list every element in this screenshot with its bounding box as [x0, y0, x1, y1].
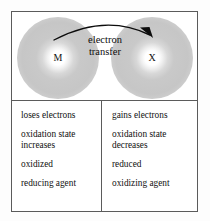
- electron-transfer-label-line2: transfer: [89, 46, 121, 57]
- electron-transfer-label: electron transfer: [67, 34, 143, 58]
- table-column-reduction: gains electrons oxidation state decrease…: [101, 101, 197, 211]
- table-cell: loses electrons: [21, 110, 101, 121]
- table-cell: oxidation state decreases: [112, 129, 197, 151]
- table-cell: reduced: [112, 159, 197, 170]
- figure-page: M X electron transfer loses electrons ox…: [0, 0, 210, 221]
- table-cell: gains electrons: [112, 110, 197, 121]
- electron-transfer-label-line1: electron: [88, 34, 122, 45]
- electron-transfer-diagram: M X electron transfer: [12, 12, 197, 100]
- table-cell: oxidized: [21, 159, 101, 170]
- table-column-oxidation: loses electrons oxidation state increase…: [12, 101, 101, 211]
- table-cell: oxidizing agent: [112, 178, 197, 189]
- figure-frame: M X electron transfer loses electrons ox…: [11, 11, 198, 212]
- table-cell: reducing agent: [21, 178, 101, 189]
- table-cell: oxidation state increases: [21, 129, 101, 151]
- comparison-table: loses electrons oxidation state increase…: [12, 101, 197, 211]
